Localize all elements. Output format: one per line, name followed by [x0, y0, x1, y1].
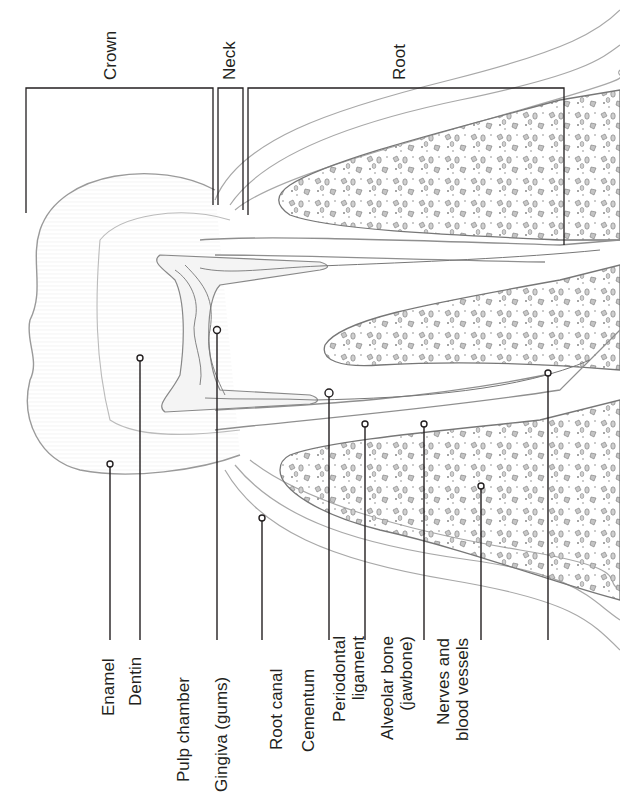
label-pulp-chamber: Pulp chamber [174, 677, 193, 782]
label-alveolar-bone: Alveolar bone (jawbone) [378, 636, 416, 778]
label-alveolar-bone-line2: (jawbone) [397, 636, 416, 778]
alveolar-bone-lower [280, 400, 620, 600]
label-gingiva: Gingiva (gums) [212, 677, 231, 792]
label-nerves-vessels-line2: blood vessels [453, 638, 472, 778]
label-root-canal: Root canal [267, 669, 286, 750]
region-label-crown: Crown [101, 31, 120, 80]
label-nerves-vessels-line1: Nerves and [434, 638, 453, 778]
region-label-root: Root [390, 44, 409, 80]
alveolar-bone-upper [279, 90, 620, 240]
label-dentin: Dentin [126, 657, 145, 706]
label-periodontal-ligament: Periodontal ligament [330, 636, 368, 756]
label-nerves-vessels: Nerves and blood vessels [434, 638, 472, 778]
label-alveolar-bone-line1: Alveolar bone [378, 636, 397, 778]
label-periodontal-ligament-line1: Periodontal [330, 636, 349, 756]
region-label-neck: Neck [220, 41, 239, 80]
label-enamel: Enamel [99, 658, 118, 716]
alveolar-bone-middle [324, 265, 620, 370]
label-periodontal-ligament-line2: ligament [349, 636, 368, 756]
label-cementum: Cementum [299, 669, 318, 752]
